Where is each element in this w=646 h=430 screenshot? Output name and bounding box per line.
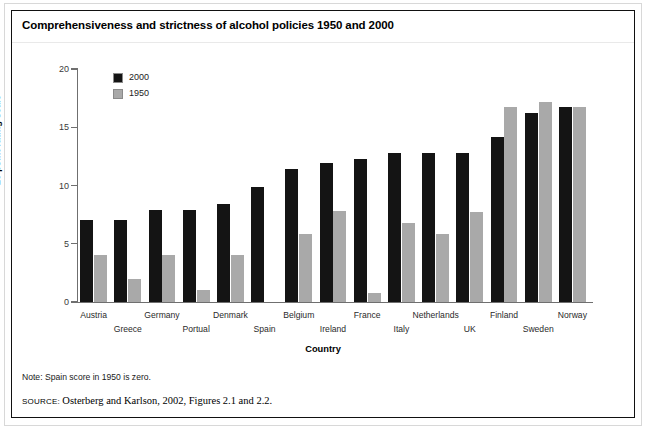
- bar-portual-1950: [197, 290, 210, 302]
- x-category-label-sweden: Sweden: [523, 324, 554, 334]
- bar-france-2000: [354, 159, 367, 302]
- bar-norway-2000: [559, 107, 572, 302]
- bar-germany-2000: [149, 210, 162, 302]
- source-text: Osterberg and Karlson, 2002, Figures 2.1…: [62, 395, 272, 406]
- y-tick-0: [71, 301, 77, 302]
- y-tick-5: [71, 243, 77, 244]
- x-category-label-denmark: Denmark: [213, 310, 248, 320]
- bar-germany-1950: [162, 255, 175, 302]
- bar-ireland-2000: [320, 163, 333, 302]
- y-tick-label-15: 15: [29, 122, 69, 132]
- x-category-label-finland: Finland: [490, 310, 518, 320]
- x-category-label-norway: Norway: [558, 310, 587, 320]
- bar-sweden-2000: [525, 113, 538, 302]
- bar-greece-1950: [128, 279, 141, 302]
- bar-austria-1950: [94, 255, 107, 302]
- plot-area: [78, 69, 591, 302]
- title-divider: [12, 42, 634, 43]
- x-category-label-france: France: [354, 310, 381, 320]
- bar-finland-1950: [504, 107, 517, 302]
- bar-italy-2000: [388, 153, 401, 302]
- x-axis-line: [77, 302, 593, 303]
- bar-finland-2000: [491, 137, 504, 302]
- bar-netherlands-2000: [422, 153, 435, 302]
- y-tick-label-20: 20: [29, 64, 69, 74]
- bar-portual-2000: [183, 210, 196, 302]
- x-category-label-belgium: Belgium: [283, 310, 314, 320]
- y-tick-10: [71, 185, 77, 186]
- bar-belgium-1950: [299, 234, 312, 302]
- bar-spain-2000: [251, 187, 264, 302]
- x-category-label-uk: UK: [464, 324, 476, 334]
- bar-norway-1950: [573, 107, 586, 302]
- source-label: source:: [22, 397, 60, 406]
- y-axis-label: 20 point rating scale: [0, 95, 2, 185]
- y-tick-label-5: 5: [29, 239, 69, 249]
- x-category-label-netherlands: Netherlands: [412, 310, 458, 320]
- bar-netherlands-1950: [436, 234, 449, 302]
- x-category-label-italy: Italy: [394, 324, 410, 334]
- x-category-label-greece: Greece: [114, 324, 142, 334]
- bar-austria-2000: [80, 220, 93, 302]
- x-axis-label: Country: [0, 344, 646, 354]
- bar-belgium-2000: [285, 169, 298, 302]
- figure-note: Note: Spain score in 1950 is zero.: [22, 372, 151, 382]
- x-category-label-germany: Germany: [144, 310, 179, 320]
- bar-italy-1950: [402, 223, 415, 302]
- page-title: Comprehensiveness and strictness of alco…: [22, 19, 394, 31]
- bar-denmark-1950: [231, 255, 244, 302]
- y-tick-15: [71, 127, 77, 128]
- bar-uk-2000: [456, 153, 469, 302]
- y-tick-20: [71, 68, 77, 69]
- figure-container: Comprehensiveness and strictness of alco…: [0, 0, 646, 430]
- bar-sweden-1950: [539, 102, 552, 302]
- x-category-label-portual: Portual: [183, 324, 210, 334]
- x-category-label-ireland: Ireland: [320, 324, 346, 334]
- figure-source: source: Osterberg and Karlson, 2002, Fig…: [22, 395, 272, 406]
- y-tick-label-10: 10: [29, 181, 69, 191]
- bar-uk-1950: [470, 212, 483, 302]
- bar-ireland-1950: [333, 211, 346, 302]
- y-tick-label-0: 0: [29, 297, 69, 307]
- bar-greece-2000: [114, 220, 127, 302]
- x-category-label-spain: Spain: [254, 324, 276, 334]
- bar-france-1950: [368, 293, 381, 302]
- x-category-label-austria: Austria: [80, 310, 107, 320]
- bar-denmark-2000: [217, 204, 230, 302]
